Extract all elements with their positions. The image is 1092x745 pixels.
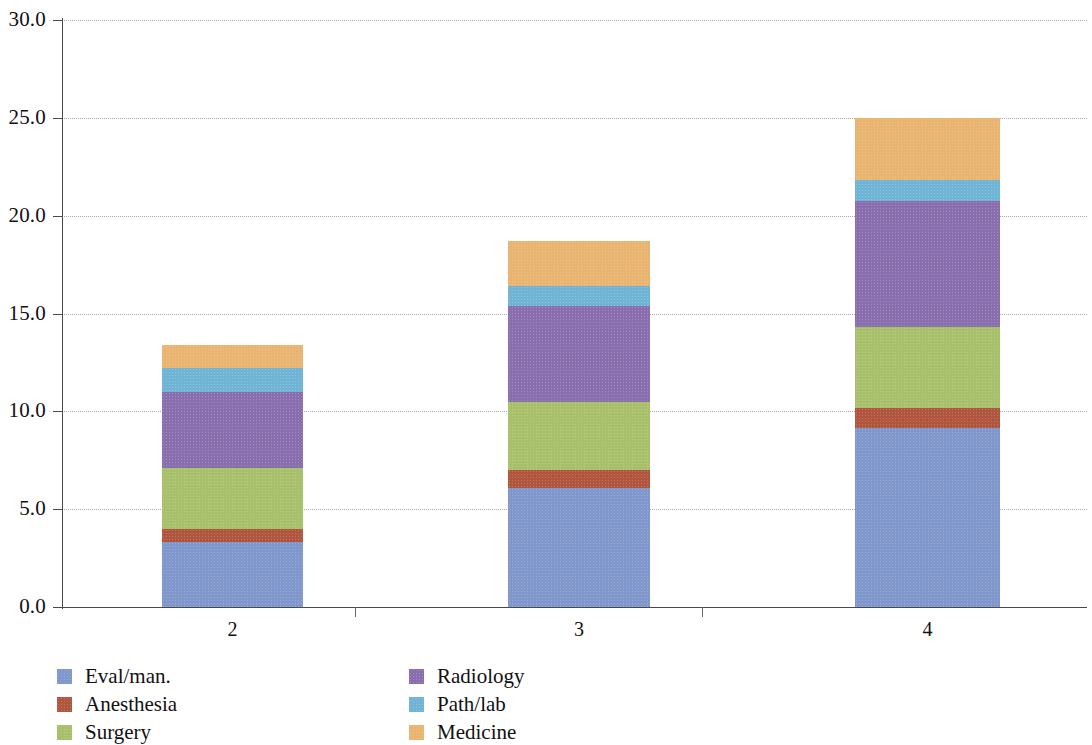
bar-grain-texture xyxy=(855,327,1000,408)
y-axis-tick-label: 30.0 xyxy=(0,7,46,32)
y-axis-tick-label: 0.0 xyxy=(0,594,46,619)
y-axis-tick-label: 25.0 xyxy=(0,105,46,130)
legend-swatch-grain-texture xyxy=(409,669,424,684)
bar-grain-texture xyxy=(855,118,1000,181)
bar-segment[interactable] xyxy=(508,306,650,402)
bar-grain-texture xyxy=(162,542,303,607)
legend-item-label: Anesthesia xyxy=(85,694,177,715)
bar-segment[interactable] xyxy=(508,286,650,306)
bar-segment[interactable] xyxy=(508,488,650,607)
bar-stack[interactable] xyxy=(508,20,650,607)
x-axis-line xyxy=(62,607,1087,608)
bar-segment[interactable] xyxy=(162,392,303,468)
legend-swatch-grain-texture xyxy=(409,697,424,712)
bar-segment[interactable] xyxy=(162,345,303,368)
stacked-bar-chart: 0.05.010.015.020.025.030.0 234 Eval/man.… xyxy=(0,0,1092,745)
legend-swatch-grain-texture xyxy=(57,697,72,712)
legend-color-swatch xyxy=(409,669,424,684)
y-axis-tick-label: 15.0 xyxy=(0,301,46,326)
bar-segment[interactable] xyxy=(508,241,650,286)
legend-item[interactable]: Radiology xyxy=(409,663,525,690)
y-axis-tick-mark xyxy=(53,314,62,315)
x-axis-tick-mark xyxy=(702,607,703,617)
legend-swatch-grain-texture xyxy=(57,669,72,684)
x-axis-tick-label: 4 xyxy=(855,618,1000,641)
bar-segment[interactable] xyxy=(162,529,303,543)
y-axis-tick-mark xyxy=(53,509,62,510)
y-axis-tick-label: 20.0 xyxy=(0,203,46,228)
bar-grain-texture xyxy=(855,201,1000,327)
bar-stack[interactable] xyxy=(855,20,1000,607)
legend-color-swatch xyxy=(57,697,72,712)
legend-color-swatch xyxy=(57,669,72,684)
bar-segment[interactable] xyxy=(162,542,303,607)
bar-grain-texture xyxy=(162,468,303,529)
legend-color-swatch xyxy=(57,725,72,740)
bar-grain-texture xyxy=(508,286,650,306)
bar-grain-texture xyxy=(508,241,650,286)
bar-segment[interactable] xyxy=(162,368,303,391)
x-axis-tick-label: 3 xyxy=(508,618,650,641)
bar-grain-texture xyxy=(162,529,303,543)
legend-item[interactable]: Eval/man. xyxy=(57,663,177,690)
legend-item[interactable]: Medicine xyxy=(409,719,525,745)
bar-stack[interactable] xyxy=(162,20,303,607)
legend-item[interactable]: Anesthesia xyxy=(57,691,177,718)
y-axis-tick-label: 10.0 xyxy=(0,398,46,423)
bar-grain-texture xyxy=(508,470,650,488)
legend-column-right: RadiologyPath/labMedicine xyxy=(409,663,525,745)
y-axis-tick-label: 5.0 xyxy=(0,496,46,521)
bar-grain-texture xyxy=(508,402,650,470)
legend-item[interactable]: Path/lab xyxy=(409,691,525,718)
bar-segment[interactable] xyxy=(162,468,303,529)
bar-segment[interactable] xyxy=(855,428,1000,607)
bar-segment[interactable] xyxy=(855,201,1000,327)
x-axis-tick-label: 2 xyxy=(162,618,303,641)
legend-color-swatch xyxy=(409,697,424,712)
bar-segment[interactable] xyxy=(508,470,650,488)
bar-segment[interactable] xyxy=(855,408,1000,428)
legend-item-label: Radiology xyxy=(437,666,525,687)
bar-segment[interactable] xyxy=(855,180,1000,201)
bar-segment[interactable] xyxy=(855,327,1000,408)
legend-item-label: Surgery xyxy=(85,722,151,743)
bar-segment[interactable] xyxy=(508,402,650,470)
legend-color-swatch xyxy=(409,725,424,740)
legend-swatch-grain-texture xyxy=(57,725,72,740)
legend-column-left: Eval/man.AnesthesiaSurgery xyxy=(57,663,177,745)
legend-item-label: Eval/man. xyxy=(85,666,171,687)
bar-grain-texture xyxy=(508,488,650,607)
plot-area xyxy=(62,20,1087,607)
bar-grain-texture xyxy=(162,368,303,391)
bar-segment[interactable] xyxy=(855,118,1000,181)
bar-grain-texture xyxy=(162,392,303,468)
bar-grain-texture xyxy=(855,428,1000,607)
legend-item-label: Medicine xyxy=(437,722,516,743)
y-axis-tick-mark xyxy=(53,411,62,412)
y-axis-tick-mark xyxy=(53,607,62,608)
legend-item-label: Path/lab xyxy=(437,694,506,715)
legend-swatch-grain-texture xyxy=(409,725,424,740)
legend-item[interactable]: Surgery xyxy=(57,719,177,745)
y-axis-tick-mark xyxy=(53,216,62,217)
x-axis-tick-mark xyxy=(355,607,356,617)
y-axis-tick-mark xyxy=(53,20,62,21)
bar-grain-texture xyxy=(855,408,1000,428)
y-axis-tick-mark xyxy=(53,118,62,119)
bar-grain-texture xyxy=(855,180,1000,201)
bar-grain-texture xyxy=(162,345,303,368)
bar-grain-texture xyxy=(508,306,650,402)
